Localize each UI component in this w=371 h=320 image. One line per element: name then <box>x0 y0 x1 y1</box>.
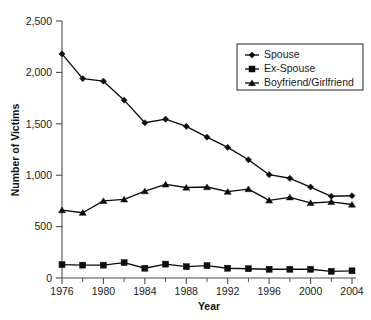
y-tick-label: 0 <box>46 272 52 284</box>
marker-diamond <box>307 184 313 190</box>
marker-square <box>59 262 65 268</box>
legend-item-label: Ex-Spouse <box>264 62 316 74</box>
marker-square <box>204 263 210 269</box>
marker-square <box>266 266 272 272</box>
y-tick-label: 1,000 <box>26 169 52 181</box>
marker-diamond <box>287 175 293 181</box>
marker-diamond <box>349 193 355 199</box>
marker-square <box>249 66 255 72</box>
marker-square <box>100 262 106 268</box>
marker-square <box>80 262 86 268</box>
marker-square <box>121 260 127 266</box>
x-tick-label: 2000 <box>299 285 323 297</box>
chart-figure: 05001,0001,5002,0002,500 197619801984198… <box>0 0 371 320</box>
y-tick-label: 2,500 <box>26 15 52 27</box>
marker-square <box>163 261 169 267</box>
marker-square <box>287 266 293 272</box>
y-axis: 05001,0001,5002,0002,500 <box>26 15 62 284</box>
x-tick-label: 2004 <box>340 285 364 297</box>
legend-item-label: Spouse <box>264 48 300 60</box>
legend-item-label: Boyfriend/Girlfriend <box>264 76 354 88</box>
x-axis-ticks <box>62 278 352 284</box>
y-axis-title: Number of Victims <box>9 104 21 197</box>
marker-square <box>245 266 251 272</box>
marker-square <box>142 265 148 271</box>
y-tick-label: 2,000 <box>26 66 52 78</box>
x-axis-tick-labels: 19761980198419881992199620002004 <box>50 285 364 297</box>
x-tick-label: 1992 <box>216 285 240 297</box>
marker-square <box>183 264 189 270</box>
marker-square <box>308 266 314 272</box>
y-tick-label: 500 <box>34 220 52 232</box>
x-tick-label: 1984 <box>133 285 157 297</box>
x-tick-label: 1980 <box>92 285 116 297</box>
marker-diamond <box>162 116 168 122</box>
marker-square <box>328 268 334 274</box>
y-axis-ticks <box>56 21 62 278</box>
marker-diamond <box>204 134 210 140</box>
x-tick-label: 1996 <box>257 285 281 297</box>
line-chart: 05001,0001,5002,0002,500 197619801984198… <box>0 0 371 320</box>
y-tick-label: 1,500 <box>26 118 52 130</box>
x-axis: 19761980198419881992199620002004 <box>50 278 364 297</box>
series-ex-spouse <box>59 260 355 275</box>
chart-legend: SpouseEx-SpouseBoyfriend/Girlfriend <box>237 44 363 90</box>
marker-square <box>225 265 231 271</box>
marker-diamond <box>183 123 189 129</box>
x-tick-label: 1976 <box>50 285 74 297</box>
x-tick-label: 1988 <box>175 285 199 297</box>
marker-diamond <box>225 144 231 150</box>
x-axis-title: Year <box>198 300 220 312</box>
y-axis-tick-labels: 05001,0001,5002,0002,500 <box>26 15 52 284</box>
marker-square <box>349 268 355 274</box>
